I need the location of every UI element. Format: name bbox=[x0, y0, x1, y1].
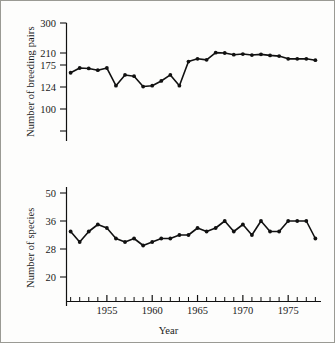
top-panel-axes: 300 210 175 124 100 bbox=[40, 18, 66, 141]
data-point bbox=[286, 219, 290, 223]
data-point bbox=[168, 237, 172, 241]
top-ytick-label-175: 175 bbox=[40, 60, 56, 71]
data-point bbox=[150, 240, 154, 244]
bottom-y-axis-title: Number of species bbox=[25, 208, 36, 288]
data-point bbox=[141, 85, 145, 89]
bottom-ytick-label-28: 28 bbox=[46, 244, 57, 255]
data-point bbox=[196, 57, 200, 61]
data-point bbox=[178, 233, 182, 237]
data-point bbox=[96, 223, 100, 227]
bottom-ytick-label-20: 20 bbox=[46, 272, 57, 283]
data-point bbox=[241, 52, 245, 56]
data-point bbox=[168, 73, 172, 77]
bottom-ytick-label-50: 50 bbox=[46, 188, 57, 199]
data-point bbox=[205, 58, 209, 62]
dual-timeseries-chart: 300 210 175 124 100 50 36 28 20 19 bbox=[1, 1, 335, 343]
top-ytick-label-210: 210 bbox=[40, 48, 56, 59]
x-tick-label-1965: 1965 bbox=[187, 305, 208, 316]
data-point bbox=[132, 74, 136, 78]
data-point bbox=[241, 223, 245, 227]
data-point bbox=[132, 237, 136, 241]
x-tick-label-1960: 1960 bbox=[142, 305, 163, 316]
data-point bbox=[196, 226, 200, 230]
data-point bbox=[78, 240, 82, 244]
data-point bbox=[69, 71, 73, 75]
data-point bbox=[205, 230, 209, 234]
figure-panel: 300 210 175 124 100 50 36 28 20 19 bbox=[0, 0, 335, 343]
data-point bbox=[286, 57, 290, 61]
data-point bbox=[187, 233, 191, 237]
data-point bbox=[295, 219, 299, 223]
data-point bbox=[87, 230, 91, 234]
top-ytick-label-124: 124 bbox=[40, 82, 57, 93]
data-point bbox=[69, 230, 73, 234]
x-tick-label-1970: 1970 bbox=[232, 305, 253, 316]
data-point bbox=[114, 84, 118, 88]
data-point bbox=[105, 226, 109, 230]
x-axis-tick-labels: 19551960196519701975 bbox=[96, 305, 298, 316]
data-point bbox=[159, 237, 163, 241]
data-point bbox=[313, 58, 317, 62]
data-point bbox=[304, 219, 308, 223]
data-point bbox=[250, 233, 254, 237]
data-point bbox=[268, 230, 272, 234]
x-axis: 19551960196519701975 bbox=[66, 295, 321, 316]
data-point bbox=[123, 73, 127, 77]
data-point bbox=[141, 244, 145, 248]
x-tick-label-1975: 1975 bbox=[278, 305, 299, 316]
top-y-axis-title: Number of breeding pairs bbox=[25, 26, 36, 137]
data-point bbox=[178, 84, 182, 88]
data-point bbox=[214, 51, 218, 55]
data-point bbox=[304, 57, 308, 61]
data-point bbox=[114, 237, 118, 241]
data-point bbox=[277, 54, 281, 58]
bottom-series-markers bbox=[69, 219, 318, 247]
x-axis-tick-marks bbox=[71, 295, 316, 302]
data-point bbox=[223, 51, 227, 55]
bottom-ytick-label-36: 36 bbox=[46, 216, 57, 227]
data-point bbox=[105, 66, 109, 70]
data-point bbox=[214, 226, 218, 230]
data-point bbox=[259, 52, 263, 56]
data-point bbox=[123, 240, 127, 244]
data-point bbox=[187, 60, 191, 64]
data-point bbox=[268, 54, 272, 58]
data-point bbox=[87, 67, 91, 71]
top-ytick-label-300: 300 bbox=[40, 18, 56, 29]
top-series-markers bbox=[69, 51, 318, 89]
data-point bbox=[159, 79, 163, 83]
x-axis-title: Year bbox=[1, 325, 335, 336]
data-point bbox=[232, 230, 236, 234]
data-point bbox=[313, 237, 317, 241]
data-point bbox=[277, 230, 281, 234]
data-point bbox=[223, 219, 227, 223]
x-tick-label-1955: 1955 bbox=[96, 305, 117, 316]
bottom-panel-axes: 50 36 28 20 bbox=[46, 187, 67, 297]
data-point bbox=[250, 53, 254, 57]
data-point bbox=[259, 219, 263, 223]
data-point bbox=[232, 53, 236, 57]
data-point bbox=[78, 66, 82, 70]
data-point bbox=[295, 57, 299, 61]
data-point bbox=[96, 68, 100, 72]
top-ytick-label-100: 100 bbox=[40, 104, 56, 115]
data-point bbox=[150, 84, 154, 88]
